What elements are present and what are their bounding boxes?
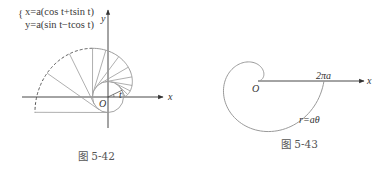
angle-label: t	[119, 89, 122, 100]
involute-solid	[93, 48, 133, 97]
tangent-segment	[105, 77, 132, 82]
intercept-label: 2πa	[316, 70, 331, 81]
caption-5-43: 图 5-43	[281, 138, 318, 150]
figure-5-43	[223, 62, 364, 132]
figures-canvas: { x=a(cos t+tsin t) y=a(sin t−tcos t) y …	[0, 0, 387, 171]
tangent-segment	[93, 50, 106, 92]
origin-label: O	[252, 83, 259, 94]
brace: {	[18, 8, 23, 19]
equation-y: y=a(sin t−tcos t)	[25, 19, 95, 31]
x-axis-label: x	[167, 91, 173, 102]
involute-dashed	[35, 48, 93, 112]
origin-label: O	[99, 98, 106, 109]
tangent-segment	[111, 82, 132, 86]
tangent-segment	[47, 73, 99, 110]
x-axis-label: x	[366, 75, 372, 86]
spiral-equation-label: r=aθ	[299, 114, 320, 125]
caption-5-42: 图 5-42	[78, 150, 115, 162]
tangent-segment	[69, 54, 94, 104]
equation-x: x=a(cos t+tsin t)	[25, 6, 95, 18]
y-axis-label: y	[100, 13, 106, 24]
